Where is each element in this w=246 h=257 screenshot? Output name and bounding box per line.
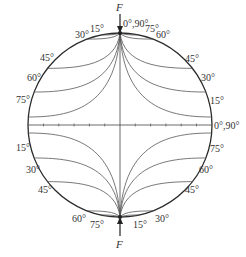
isoclinic-curve	[120, 182, 192, 217]
ll-label-60: 60°	[72, 213, 86, 224]
ll-label-75: 75°	[90, 219, 104, 230]
lr-label-45: 45°	[185, 184, 199, 195]
lr-label-60: 60°	[199, 164, 213, 175]
lr-label-15: 15°	[133, 219, 147, 230]
ur-label-30: 30°	[201, 72, 215, 83]
isoclinic-curve	[48, 182, 120, 217]
bottom-load-point	[118, 215, 122, 219]
ur-label-60: 60°	[156, 29, 170, 40]
top-force-label: F	[115, 1, 123, 13]
ul-label-75: 75°	[16, 94, 30, 105]
axis-end-label: 0°,90°	[214, 120, 240, 131]
ul-label-45: 45°	[40, 52, 54, 63]
ul-label-15: 15°	[90, 23, 104, 34]
ur-label-45: 45°	[185, 53, 199, 64]
ul-label-30: 30°	[75, 29, 89, 40]
lr-label-75: 75°	[210, 143, 224, 154]
bottom-force-label: F	[115, 238, 123, 250]
ll-label-15: 15°	[16, 142, 30, 153]
ll-label-45: 45°	[38, 184, 52, 195]
ur-label-15: 15°	[210, 95, 224, 106]
lr-label-30: 30°	[155, 213, 169, 224]
diagram-canvas: F F 0°,90° 0°,90° 15° 30° 45° 60° 75° 75…	[0, 0, 246, 257]
top-load-point	[118, 31, 122, 35]
ul-label-60: 60°	[27, 72, 41, 83]
ll-label-30: 30°	[26, 164, 40, 175]
